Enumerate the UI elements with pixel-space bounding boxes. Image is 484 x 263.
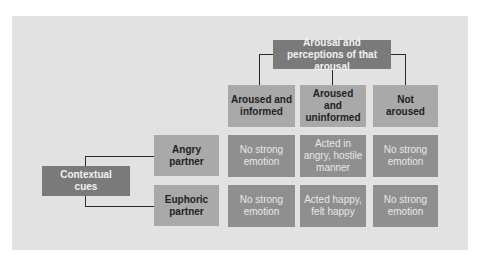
- column-header-aroused-informed: Aroused and informed: [228, 85, 295, 127]
- column-header-not-aroused: Not aroused: [373, 85, 438, 127]
- cell-euphoric-not-aroused: No strong emotion: [373, 185, 438, 227]
- row-header-euphoric-partner: Euphoric partner: [154, 185, 219, 226]
- connector-left-top-v: [85, 156, 86, 166]
- left-header-box: Contextual cues: [42, 166, 130, 196]
- cell-euphoric-uninformed: Acted happy, felt happy: [300, 185, 366, 227]
- connector-top-left-v: [259, 54, 260, 85]
- connector-top-left-h: [259, 54, 273, 55]
- cell-angry-uninformed: Acted in angry, hostile manner: [300, 135, 366, 177]
- top-header-box: Arousal and perceptions of that arousal: [273, 40, 391, 69]
- connector-left-bottom-h: [85, 206, 154, 207]
- connector-top-right-v: [405, 54, 406, 85]
- row-header-angry-partner: Angry partner: [154, 135, 219, 176]
- connector-top-right-h: [391, 54, 406, 55]
- column-header-aroused-uninformed: Aroused and uninformed: [300, 85, 366, 127]
- cell-angry-informed: No strong emotion: [228, 135, 295, 177]
- cell-euphoric-informed: No strong emotion: [228, 185, 295, 227]
- cell-angry-not-aroused: No strong emotion: [373, 135, 438, 177]
- connector-left-bottom-v: [85, 196, 86, 206]
- connector-left-top-h: [85, 156, 154, 157]
